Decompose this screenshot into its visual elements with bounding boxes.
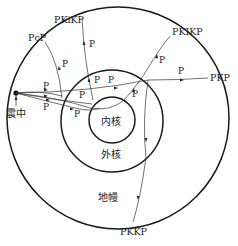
- p-label-core-2: P: [108, 75, 114, 85]
- inner-core-label: 内核: [101, 115, 121, 127]
- pkikp-arrow: [83, 41, 86, 45]
- pkp-arrow-2: [114, 87, 118, 90]
- pkkp-label: PKKP: [120, 226, 148, 237]
- p-label-core-1: P: [94, 75, 100, 85]
- mantle-label: 地幔: [98, 191, 118, 203]
- p-label-pkikp-top: P: [89, 39, 95, 49]
- earth-seismic-wave-diagram: 震中 PcP PKiKP PKIKP PKP PKKP P P P P P P …: [0, 0, 238, 246]
- pkp-label: PKP: [210, 72, 230, 83]
- pcp-arrow: [57, 66, 61, 71]
- p-label-mid-1: P: [79, 90, 85, 100]
- p-label-pkp: P: [178, 66, 184, 76]
- p-label-pcp: P: [62, 59, 68, 69]
- p-label-pkikp-right: P: [159, 55, 165, 65]
- focus-pointer-arrow: [15, 96, 18, 100]
- pkkp-ray: [133, 80, 148, 222]
- pkikp-right-label: PKIKP: [172, 26, 203, 37]
- p-label-lower-left: P: [43, 102, 49, 112]
- pcp-ray: [16, 42, 62, 98]
- pkikp-arrow-2: [88, 78, 91, 82]
- p-label-core-3: P: [132, 89, 138, 99]
- pkikp-top-label: PKiKP: [54, 14, 85, 25]
- focus-label: 震中: [6, 107, 26, 119]
- p-label-mid-2: P: [74, 109, 80, 119]
- p-label-upper-left: P: [43, 81, 49, 91]
- outer-core-label: 外核: [101, 148, 121, 160]
- pcp-label: PcP: [28, 32, 47, 43]
